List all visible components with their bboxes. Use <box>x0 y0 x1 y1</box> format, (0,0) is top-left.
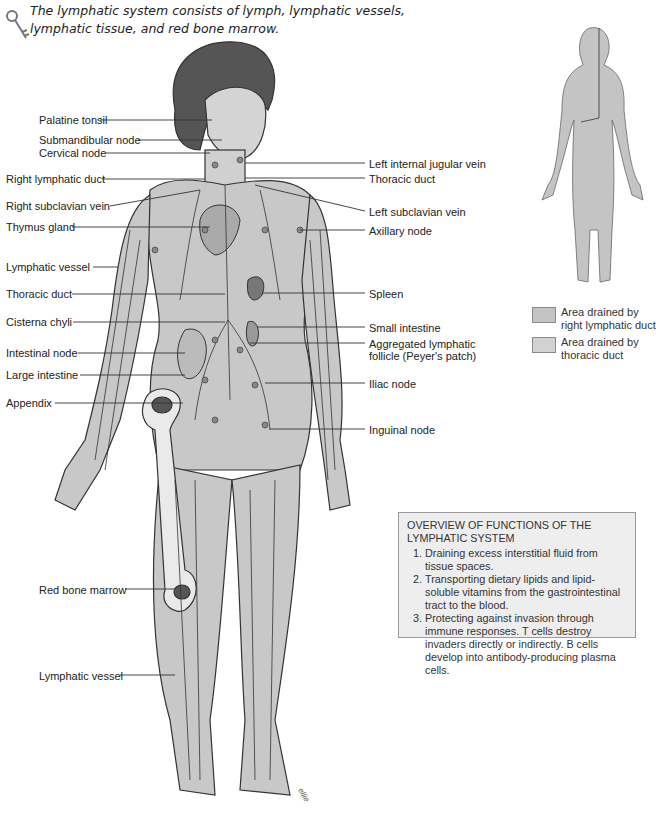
label-intestinal-node: Intestinal node <box>6 347 78 360</box>
label-peyers-patch: follicle (Peyer's patch) <box>369 350 476 363</box>
label-submandibular-node: Submandibular node <box>39 134 141 147</box>
label-lymphatic-vessel-leg: Lymphatic vessel <box>39 670 123 683</box>
overview-item: Protecting against invasion through immu… <box>425 612 627 677</box>
label-left-internal-jugular-vein: Left internal jugular vein <box>369 158 486 171</box>
legend-line-2: thoracic duct <box>561 349 623 361</box>
overview-list: Draining excess interstitial fluid from … <box>407 547 627 677</box>
label-appendix: Appendix <box>6 397 52 410</box>
label-lymphatic-vessel-arm: Lymphatic vessel <box>6 261 90 274</box>
overview-item: Draining excess interstitial fluid from … <box>425 547 627 573</box>
label-iliac-node: Iliac node <box>369 378 416 391</box>
label-left-subclavian-vein: Left subclavian vein <box>369 206 466 219</box>
legend-swatch-thoracic-duct <box>532 337 556 353</box>
label-spleen: Spleen <box>369 288 403 301</box>
label-right-subclavian-vein: Right subclavian vein <box>6 200 110 213</box>
label-small-intestine: Small intestine <box>369 322 441 335</box>
label-cervical-node: Cervical node <box>39 147 106 160</box>
overview-item: Transporting dietary lipids and lipid-so… <box>425 573 627 612</box>
label-palatine-tonsil: Palatine tonsil <box>39 114 108 127</box>
legend-line-2: right lymphatic duct <box>561 319 656 331</box>
label-large-intestine: Large intestine <box>6 369 78 382</box>
label-right-lymphatic-duct: Right lymphatic duct <box>6 173 105 186</box>
legend-line-1: Area drained by <box>561 306 639 318</box>
label-thoracic-duct-left: Thoracic duct <box>6 288 72 301</box>
legend-label-thoracic-duct: Area drained by thoracic duct <box>561 336 639 362</box>
artist-signature: ellie <box>296 787 311 804</box>
label-red-bone-marrow: Red bone marrow <box>39 584 126 597</box>
overview-title: OVERVIEW OF FUNCTIONS OF THE LYMPHATIC S… <box>407 519 627 545</box>
label-thymus-gland: Thymus gland <box>6 221 75 234</box>
label-axillary-node: Axillary node <box>369 225 432 238</box>
label-inguinal-node: Inguinal node <box>369 424 435 437</box>
drainage-map-figure <box>542 28 643 282</box>
spleen <box>247 277 263 300</box>
label-thoracic-duct-right: Thoracic duct <box>369 173 435 186</box>
legend-line-1: Area drained by <box>561 336 639 348</box>
label-cisterna-chyli: Cisterna chyli <box>6 316 72 329</box>
legend-swatch-right-lymphatic-duct <box>532 307 556 323</box>
legend-label-right-lymphatic-duct: Area drained by right lymphatic duct <box>561 306 656 332</box>
overview-functions-box: OVERVIEW OF FUNCTIONS OF THE LYMPHATIC S… <box>398 512 636 638</box>
small-intestine <box>246 321 258 346</box>
